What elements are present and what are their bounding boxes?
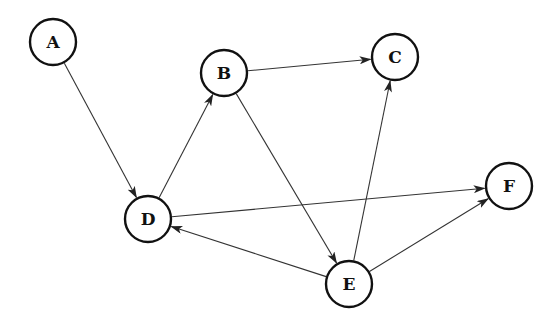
- arrow-icon: [64, 63, 136, 197]
- arrow-icon: [171, 227, 326, 277]
- node-label: B: [217, 63, 231, 83]
- edge-a-to-d: [64, 63, 136, 197]
- nodes-layer: ABCDEF: [30, 19, 532, 307]
- edge-e-to-d: [171, 227, 326, 277]
- node-b: B: [201, 50, 247, 96]
- edge-b-to-c: [248, 59, 371, 70]
- node-label: D: [141, 209, 156, 229]
- node-d: D: [125, 196, 171, 242]
- arrow-icon: [172, 188, 485, 217]
- edges-layer: [64, 59, 488, 276]
- node-a: A: [30, 19, 76, 65]
- node-e: E: [326, 261, 372, 307]
- arrow-icon: [369, 199, 488, 272]
- arrow-icon: [236, 94, 336, 263]
- arrow-icon: [248, 59, 371, 70]
- edge-e-to-c: [354, 81, 390, 260]
- node-label: E: [343, 274, 356, 294]
- node-label: F: [503, 176, 515, 196]
- node-c: C: [372, 34, 418, 80]
- node-label: C: [388, 47, 402, 67]
- arrow-icon: [354, 81, 390, 260]
- edge-b-to-e: [236, 94, 336, 263]
- node-label: A: [45, 32, 60, 52]
- node-f: F: [486, 163, 532, 209]
- edge-d-to-f: [172, 188, 485, 217]
- directed-graph: ABCDEF: [0, 0, 553, 315]
- edge-e-to-f: [369, 199, 488, 272]
- arrow-icon: [159, 95, 213, 198]
- edge-d-to-b: [159, 95, 213, 198]
